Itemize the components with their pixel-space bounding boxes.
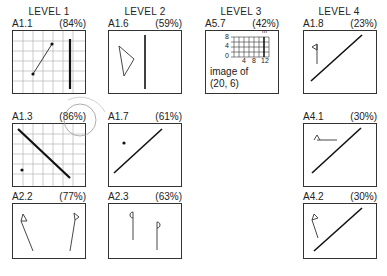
card-id: A4.2 [303,191,324,202]
horizontal-flag-figure [303,123,377,187]
level-2-heading: LEVEL 2 [100,6,190,17]
card-score: (30%) [350,191,377,202]
card-score: (77%) [59,191,86,202]
flag-icon [312,44,317,50]
card-id: A1.7 [108,111,129,122]
card-id: A1.3 [12,111,33,122]
card-id: A2.3 [108,191,129,202]
coordinate-grid-figure: 8 4 0 4 8 12 m image of (20, 6) [205,30,279,94]
x-tick-12: 12 [261,57,269,64]
caption-line-2: (20, 6) [210,78,239,89]
flags-figure [12,203,86,259]
card-score: (84%) [59,18,86,29]
card-id: A1.6 [108,18,129,29]
point-icon [122,141,125,144]
flag-icon [314,135,320,140]
triangle-icon [119,46,134,76]
level-4-heading: LEVEL 4 [294,6,384,17]
card-id: A5.7 [205,18,226,29]
point-icon [50,42,53,45]
x-tick-4: 4 [242,57,246,64]
card-id: A4.1 [303,111,324,122]
grid-figure [12,30,86,94]
point-icon [31,72,34,75]
card-score: (23%) [350,18,377,29]
card-score: (63%) [155,191,182,202]
y-tick-4: 4 [225,42,229,49]
level-3-heading: LEVEL 3 [196,6,286,17]
line-label-m: m [262,28,267,34]
card-score: (61%) [155,111,182,122]
x-tick-8: 8 [252,57,256,64]
card-id: A1.1 [12,18,33,29]
y-tick-0: 0 [225,52,229,59]
point-icon [20,168,23,171]
flag-icon [312,214,318,220]
caption-line-1: image of [210,66,248,77]
flag-line-figure [303,30,377,94]
point-line-figure [108,123,182,187]
level-1-heading: LEVEL 1 [4,6,94,17]
card-score: (30%) [350,111,377,122]
flag-icon [74,213,79,220]
y-tick-8: 8 [225,33,229,40]
card-id: A2.2 [12,191,33,202]
flag-icon [21,214,27,221]
triangle-figure [108,30,182,94]
card-id: A1.8 [303,18,324,29]
card-score: (59%) [155,18,182,29]
slanted-flag-figure [303,203,377,259]
stems-figure [108,203,182,259]
